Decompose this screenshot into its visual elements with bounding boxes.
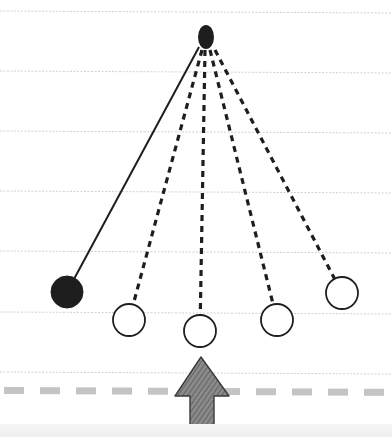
pendulum-diagram [0,0,392,437]
filled-bob-icon [51,276,83,308]
dashed-string [215,50,335,279]
hollow-bob-icon [184,315,216,347]
reference-dash [40,387,60,394]
ruled-line [0,191,392,193]
reference-dash [364,389,384,396]
bottom-band [0,424,392,437]
hollow-bob-icon [113,304,145,336]
pendulum-bobs [51,276,358,347]
reference-dash [292,388,312,395]
reference-dash [256,388,276,395]
hollow-bob-icon [326,277,358,309]
reference-dash [148,388,168,395]
reference-dash [76,387,96,394]
ruled-line [0,11,392,13]
pivot-icon [198,25,214,49]
reference-dash [328,389,348,396]
ruled-line [0,251,392,253]
ruled-line [0,131,392,133]
reference-dash [4,387,24,394]
dashed-string [133,50,202,305]
dashed-string [210,50,273,304]
pivot-point [198,25,214,49]
pendulum-strings [75,47,335,315]
reference-dash [112,388,132,395]
ruled-line [0,312,392,314]
hollow-bob-icon [261,304,293,336]
dashed-string [200,50,205,315]
diagram-canvas [0,0,392,437]
solid-string [75,47,199,278]
